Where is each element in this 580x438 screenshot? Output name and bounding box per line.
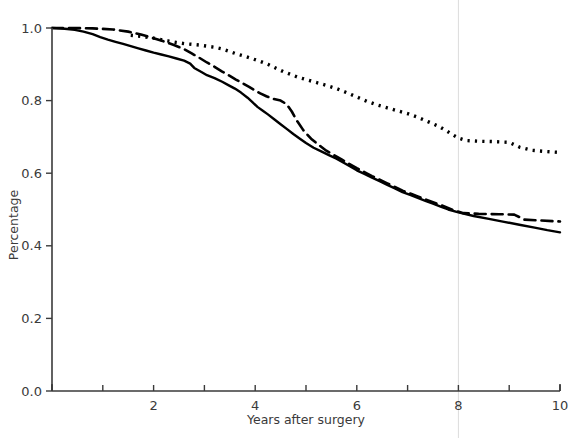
y-tick-label-1.0: 1.0 — [21, 21, 42, 36]
chart-page: 2468100.00.20.40.60.81.0 Years after sur… — [0, 0, 580, 438]
x-tick-label-4: 4 — [251, 398, 259, 413]
x-axis-title: Years after surgery — [246, 412, 366, 427]
x-tick-label-2: 2 — [149, 398, 157, 413]
x-tick-label-8: 8 — [454, 398, 462, 413]
x-tick-label-6: 6 — [353, 398, 361, 413]
y-tick-label-0.8: 0.8 — [21, 93, 42, 108]
y-tick-label-0.6: 0.6 — [21, 166, 42, 181]
y-tick-label-0.2: 0.2 — [21, 311, 42, 326]
survival-curve-chart: 2468100.00.20.40.60.81.0 Years after sur… — [0, 0, 580, 438]
y-tick-label-0.4: 0.4 — [21, 238, 42, 253]
x-tick-label-10: 10 — [552, 398, 569, 413]
y-axis-title: Percentage — [6, 190, 21, 261]
y-tick-label-0.0: 0.0 — [21, 384, 42, 399]
